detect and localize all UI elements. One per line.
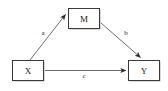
node-x-label: X [25,66,32,76]
edge-b-label: b [124,29,128,37]
node-m[interactable]: M [69,9,101,30]
node-m-label: M [80,14,88,24]
edge-a: a [30,15,66,61]
edge-b-line [101,23,141,58]
edge-c: c [45,71,126,81]
node-y[interactable]: Y [129,61,161,82]
edge-b: b [101,23,141,58]
node-x[interactable]: X [13,61,45,82]
edge-a-label: a [41,29,45,37]
mediation-diagram: a b c M X Y [0,0,168,91]
diagram-canvas: a b c M X Y [0,0,168,91]
node-y-label: Y [141,66,148,76]
edge-c-label: c [82,72,85,80]
edge-a-line [30,15,66,61]
